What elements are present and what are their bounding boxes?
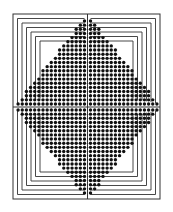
background [0, 0, 173, 212]
diamond-dot-diagram [0, 0, 173, 212]
